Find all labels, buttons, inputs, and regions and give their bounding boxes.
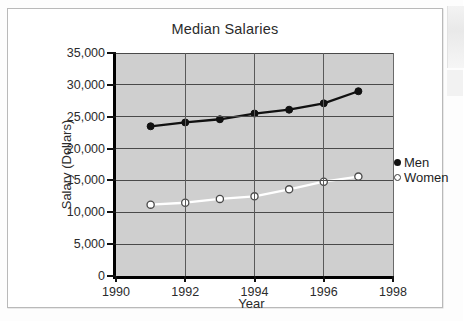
x-axis-tick [254, 276, 256, 282]
y-axis-tick [107, 52, 116, 54]
filled-circle-icon [394, 159, 401, 166]
x-gridline [185, 53, 186, 276]
scan-edge-artifact-lower [447, 70, 463, 96]
plot-area: 05,00010,00015,00020,00025,00030,00035,0… [113, 53, 393, 279]
y-axis-tick [107, 116, 116, 118]
data-point-women [216, 195, 223, 202]
legend-label-women: Women [404, 170, 449, 185]
y-axis-tick-label: 35,000 [67, 46, 105, 60]
x-gridline [323, 53, 324, 276]
y-axis-tick-label: 20,000 [67, 142, 105, 156]
y-axis-tick [107, 148, 116, 150]
legend-item-women: Women [394, 170, 449, 185]
y-axis-tick-label: 30,000 [67, 78, 105, 92]
data-point-men [147, 123, 154, 130]
legend-label-men: Men [404, 155, 429, 170]
plot-inner: 05,00010,00015,00020,00025,00030,00035,0… [116, 53, 393, 276]
legend-item-men: Men [394, 155, 449, 170]
data-point-women [147, 201, 154, 208]
y-axis-title-text: Salary (Dollars) [59, 120, 74, 210]
chart-legend: Men Women [394, 155, 449, 185]
y-axis-tick [107, 243, 116, 245]
x-axis-tick [392, 276, 394, 282]
x-gridline [254, 53, 255, 276]
y-axis-tick-label: 25,000 [67, 110, 105, 124]
data-point-men [286, 106, 293, 113]
y-axis-tick-label: 0 [98, 269, 105, 283]
x-axis-tick [115, 276, 117, 282]
y-axis-tick-label: 10,000 [67, 205, 105, 219]
y-axis-tick-label: 5,000 [74, 237, 105, 251]
y-axis-tick [107, 211, 116, 213]
scan-edge-artifact [447, 6, 464, 68]
y-axis-tick [107, 84, 116, 86]
x-axis-tick [323, 276, 325, 282]
open-circle-icon [394, 174, 401, 181]
x-axis-tick [184, 276, 186, 282]
x-axis-title: Year [113, 296, 390, 311]
y-axis-tick-label: 15,000 [67, 173, 105, 187]
chart-title: Median Salaries [8, 21, 442, 37]
y-axis-tick [107, 179, 116, 181]
data-point-men [355, 88, 362, 95]
data-point-women [286, 186, 293, 193]
chart-frame: Median Salaries Salary (Dollars) 05,0001… [7, 8, 443, 308]
